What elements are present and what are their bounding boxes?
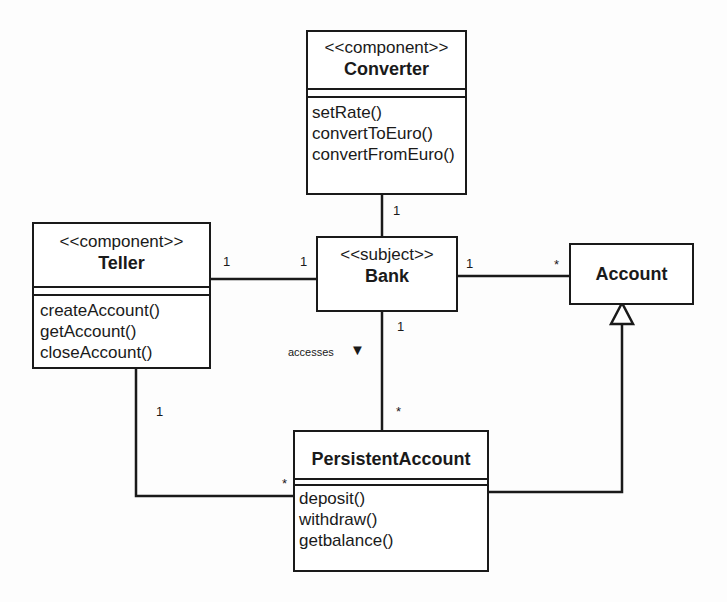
class-converter[interactable]: <<component>> Converter setRate() conver… <box>306 30 467 195</box>
operation: setRate() <box>312 102 465 123</box>
operation: convertFromEuro() <box>312 144 465 165</box>
attributes-compartment <box>295 478 487 486</box>
multiplicity-label: 1 <box>397 320 404 334</box>
class-teller[interactable]: <<component>> Teller createAccount() get… <box>32 222 211 369</box>
converter-stereotype: <<component>> <box>308 38 465 58</box>
operations-compartment: createAccount() getAccount() closeAccoun… <box>34 296 209 363</box>
multiplicity-label: 1 <box>300 255 307 269</box>
converter-name: Converter <box>308 58 465 80</box>
operation: withdraw() <box>299 509 487 530</box>
multiplicity-label: 1 <box>156 405 163 419</box>
operations-compartment: deposit() withdraw() getbalance() <box>295 486 487 551</box>
generalization-arrow-icon <box>611 303 633 324</box>
operation: deposit() <box>299 488 487 509</box>
teller-name: Teller <box>34 252 209 274</box>
bank-stereotype: <<subject>> <box>318 245 456 265</box>
account-name: Account <box>571 263 692 285</box>
class-persistent-account[interactable]: PersistentAccount deposit() withdraw() g… <box>293 430 489 572</box>
persistent-account-name: PersistentAccount <box>295 448 487 470</box>
direction-arrow-icon: ▼ <box>350 343 365 357</box>
association-label-accesses: accesses <box>288 345 334 359</box>
multiplicity-label: 1 <box>223 255 230 269</box>
class-bank[interactable]: <<subject>> Bank <box>316 236 458 312</box>
operation: convertToEuro() <box>312 123 465 144</box>
multiplicity-label: * <box>554 258 559 272</box>
operation: createAccount() <box>40 300 209 321</box>
operation: getAccount() <box>40 321 209 342</box>
attributes-compartment <box>34 286 209 296</box>
multiplicity-label: * <box>282 477 287 491</box>
attributes-compartment <box>308 88 465 98</box>
teller-stereotype: <<component>> <box>34 232 209 252</box>
multiplicity-label: * <box>396 405 401 419</box>
class-account[interactable]: Account <box>569 243 694 305</box>
operations-compartment: setRate() convertToEuro() convertFromEur… <box>308 98 465 165</box>
operation: getbalance() <box>299 530 487 551</box>
operation: closeAccount() <box>40 342 209 363</box>
bank-name: Bank <box>318 265 456 287</box>
multiplicity-label: 1 <box>393 204 400 218</box>
multiplicity-label: 1 <box>466 257 473 271</box>
uml-diagram: <<component>> Converter setRate() conver… <box>0 0 727 602</box>
